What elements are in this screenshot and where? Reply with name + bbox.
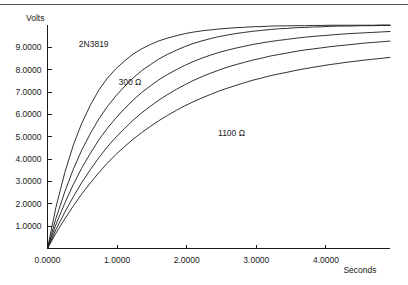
y-axis-ticks: 1.00002.00003.00004.00005.00006.00007.00… <box>16 42 52 231</box>
curve-900-ohm <box>48 41 391 248</box>
x-tick-label: 4.0000 <box>313 255 339 265</box>
annotation-label: 300 Ω <box>119 77 142 87</box>
chart-annotations: 2N3819300 Ω1100 Ω <box>79 39 245 138</box>
line-chart-plot: 1.00002.00003.00004.00005.00006.00007.00… <box>0 0 408 285</box>
x-tick-label: 2.0000 <box>174 255 200 265</box>
x-tick-label: 1.0000 <box>104 255 130 265</box>
y-tick-label: 1.0000 <box>16 221 42 231</box>
y-tick-label: 9.0000 <box>16 42 42 52</box>
x-axis-title: Seconds <box>343 265 376 275</box>
x-axis-ticks: 0.00001.00002.00003.00004.0000 <box>35 245 340 265</box>
y-tick-label: 8.0000 <box>16 65 42 75</box>
curve-1100-ohm <box>48 57 391 248</box>
y-axis-title: Volts <box>26 13 44 23</box>
y-tick-label: 7.0000 <box>16 87 42 97</box>
y-tick-label: 5.0000 <box>16 132 42 142</box>
x-tick-label: 0.0000 <box>35 255 61 265</box>
y-tick-label: 4.0000 <box>16 154 42 164</box>
annotation-label: 2N3819 <box>79 39 109 49</box>
y-tick-label: 3.0000 <box>16 176 42 186</box>
x-tick-label: 3.0000 <box>243 255 269 265</box>
annotation-label: 1100 Ω <box>218 128 245 138</box>
chart-figure: 1.00002.00003.00004.00005.00006.00007.00… <box>0 0 408 285</box>
y-tick-label: 2.0000 <box>16 199 42 209</box>
y-tick-label: 6.0000 <box>16 109 42 119</box>
curve-700-ohm <box>48 31 391 248</box>
